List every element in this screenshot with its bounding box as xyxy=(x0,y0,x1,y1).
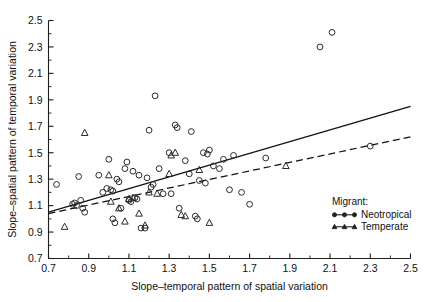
data-point-circle xyxy=(188,129,194,135)
y-tick-label: 0.9 xyxy=(28,226,43,238)
legend-label-neotropical: Neotropical xyxy=(361,209,412,220)
legend-marker-circle xyxy=(332,213,356,217)
x-tick-label: 1.1 xyxy=(122,262,137,274)
y-tick-label: 1.9 xyxy=(28,94,43,106)
x-tick-label: 2.3 xyxy=(363,262,378,274)
data-point-triangle xyxy=(136,210,143,216)
x-tick-label: 2.5 xyxy=(403,262,418,274)
data-point-circle xyxy=(247,201,253,207)
legend-entry-neotropical: Neotropical xyxy=(332,209,411,220)
x-tick-label: 2.1 xyxy=(323,262,338,274)
data-point-triangle xyxy=(206,219,213,225)
data-point-triangle xyxy=(122,218,129,224)
legend: Migrant: Neotropical Temperate xyxy=(332,196,412,232)
data-point-circle xyxy=(239,189,245,195)
legend-label-temperate: Temperate xyxy=(361,221,409,232)
data-point-circle xyxy=(96,172,102,178)
data-point-circle xyxy=(130,168,136,174)
y-tick-label: 1.7 xyxy=(28,120,43,132)
data-point-circle xyxy=(329,30,335,36)
x-tick-label: 0.9 xyxy=(81,262,96,274)
data-point-circle xyxy=(217,166,223,172)
y-tick-label: 1.3 xyxy=(28,173,43,185)
data-point-triangle xyxy=(166,170,173,176)
data-point-circle xyxy=(317,44,323,50)
y-axis-title: Slope–spatial pattern of temporal variat… xyxy=(6,41,18,238)
data-point-circle xyxy=(200,150,206,156)
y-tick-label: 2.5 xyxy=(28,14,43,26)
data-point-circle xyxy=(182,158,188,164)
y-tick-label: 1.1 xyxy=(28,199,43,211)
x-tick-label: 1.5 xyxy=(202,262,217,274)
data-point-circle xyxy=(124,159,130,165)
data-point-circle xyxy=(168,191,174,197)
legend-title: Migrant: xyxy=(332,196,368,207)
data-point-triangle xyxy=(154,190,161,196)
x-axis-tick-labels: 0.70.91.11.31.51.71.92.12.32.5 xyxy=(41,262,418,274)
figure-scatter-plot: 0.70.91.11.31.51.71.92.12.32.5 0.70.91.1… xyxy=(0,0,424,302)
data-point-circle xyxy=(136,172,142,178)
x-tick-label: 1.9 xyxy=(283,262,298,274)
data-point-circle xyxy=(146,127,152,133)
data-point-circle xyxy=(227,187,233,193)
data-point-circle xyxy=(144,175,150,181)
y-tick-label: 1.5 xyxy=(28,147,43,159)
axes-group xyxy=(49,21,411,259)
data-point-circle xyxy=(263,155,269,161)
data-point-circle xyxy=(156,166,162,172)
data-point-circle xyxy=(54,182,60,188)
data-point-circle xyxy=(106,156,112,162)
y-tick-label: 0.7 xyxy=(28,252,43,264)
data-point-circle xyxy=(231,152,237,158)
legend-entry-temperate: Temperate xyxy=(332,221,409,232)
data-point-circle xyxy=(202,180,208,186)
x-tick-label: 0.7 xyxy=(41,262,56,274)
data-point-triangle xyxy=(106,172,113,178)
plot-canvas: 0.70.91.11.31.51.71.92.12.32.5 0.70.91.1… xyxy=(0,0,424,302)
data-point-circle xyxy=(367,143,373,149)
x-tick-label: 1.7 xyxy=(242,262,257,274)
x-tick-label: 1.3 xyxy=(162,262,177,274)
data-points xyxy=(54,30,374,231)
data-point-circle xyxy=(76,174,82,180)
x-axis-title: Slope–temporal pattern of spatial variat… xyxy=(131,280,328,292)
data-point-triangle xyxy=(61,223,68,229)
data-point-triangle xyxy=(81,129,88,135)
x-axis-ticks xyxy=(49,254,411,259)
y-tick-label: 2.3 xyxy=(28,41,43,53)
data-point-circle xyxy=(122,166,128,172)
data-point-circle xyxy=(160,191,166,197)
y-axis-tick-labels: 0.70.91.11.31.51.71.92.12.32.5 xyxy=(28,14,43,264)
data-point-circle xyxy=(152,93,158,99)
data-point-triangle xyxy=(172,149,179,155)
y-tick-label: 2.1 xyxy=(28,67,43,79)
data-point-circle xyxy=(196,178,202,184)
data-point-circle xyxy=(186,171,192,177)
legend-marker-triangle xyxy=(332,224,357,228)
data-point-circle xyxy=(104,186,110,192)
y-axis-ticks xyxy=(49,21,54,259)
